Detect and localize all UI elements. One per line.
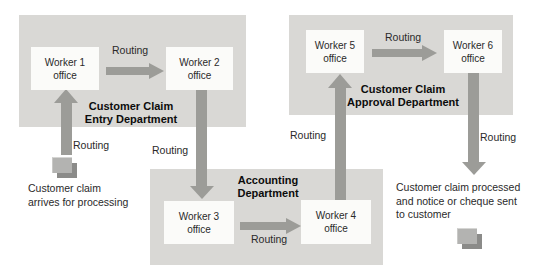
arrow-head-worker4-worker5 [328,74,352,88]
input-caption: Customer claim arrives for processing [28,182,158,209]
arrow-shaft-worker6-out [468,73,479,162]
input-caption-line2: arrives for processing [28,196,158,210]
worker1-label: Worker 1 [45,56,85,69]
worker6-label: Worker 6 [453,39,493,52]
input-caption-line1: Customer claim [28,182,158,196]
arrow-shaft-worker5-worker6 [372,49,422,57]
worker2-label: Worker 2 [179,56,219,69]
arrow-shaft-worker4-worker5 [335,88,346,201]
arrow-head-worker1-worker2 [149,63,164,79]
worker6-office-label: office [461,52,485,65]
worker3-label: Worker 3 [179,210,219,223]
routing-label-claim-in: Routing [73,139,109,151]
entry-department-label-line2: Entry Department [66,113,196,126]
arrow-head-worker5-worker6 [422,45,437,61]
arrow-shaft-worker3-worker4 [240,222,286,230]
routing-label-claim-out: Routing [480,131,516,143]
worker2-office-node: Worker 2 office [166,47,233,90]
arrow-shaft-worker2-worker3 [196,90,207,186]
routing-label-worker4-worker5: Routing [290,129,326,141]
routing-label-worker5-worker6: Routing [385,31,421,43]
arrow-shaft-into-worker1 [61,103,72,155]
routing-label-worker1-worker2: Routing [112,44,148,56]
worker4-label: Worker 4 [316,209,356,222]
accounting-department-label-line2: Department [203,187,333,200]
worker1-office-label: office [53,69,77,82]
arrow-head-worker2-worker3 [190,186,214,199]
entry-department-label-line1: Customer Claim [66,100,196,113]
input-document-icon-page [52,157,72,173]
accounting-department-label: Accounting Department [203,174,333,200]
worker6-office-node: Worker 6 office [444,30,502,73]
approval-department-label-line1: Customer Claim [338,83,468,96]
input-document-icon [52,157,78,179]
worker3-office-node: Worker 3 office [164,201,234,244]
routing-label-worker3-worker4: Routing [251,233,287,245]
approval-department-label: Customer Claim Approval Department [338,83,468,109]
arrow-head-worker3-worker4 [286,218,301,234]
output-caption: Customer claim processed and notice or c… [396,181,528,222]
approval-department-label-line2: Approval Department [338,96,468,109]
worker5-office-node: Worker 5 office [306,30,364,73]
process-flow-diagram: Customer Claim Entry Department Customer… [0,0,534,275]
output-document-icon [457,228,483,250]
routing-label-worker2-worker3: Routing [152,144,188,156]
output-caption-line2: and notice or cheque sent [396,195,528,209]
arrow-head-into-worker1 [54,89,78,103]
worker5-office-label: office [323,52,347,65]
entry-department-label: Customer Claim Entry Department [66,100,196,126]
worker1-office-node: Worker 1 office [31,47,99,90]
accounting-department-label-line1: Accounting [203,174,333,187]
worker2-office-label: office [188,69,212,82]
worker3-office-label: office [187,223,211,236]
output-caption-line1: Customer claim processed [396,181,528,195]
arrow-head-worker6-out [462,162,486,175]
worker5-label: Worker 5 [315,39,355,52]
output-document-icon-page [457,228,477,244]
worker4-office-node: Worker 4 office [301,200,371,244]
output-caption-line3: to customer [396,208,528,222]
worker4-office-label: office [324,222,348,235]
arrow-shaft-worker1-worker2 [106,67,149,75]
